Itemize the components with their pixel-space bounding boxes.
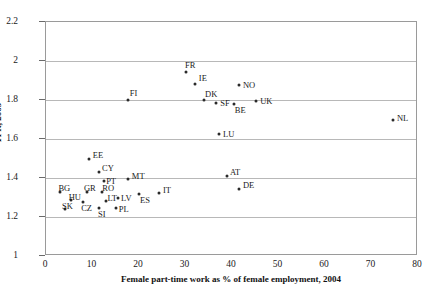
data-point-label: LT — [107, 194, 117, 203]
y-tick-mark — [39, 21, 45, 22]
data-point — [237, 83, 240, 86]
data-point-label: BG — [58, 184, 70, 193]
data-point-label: IT — [163, 186, 171, 195]
data-point-label: CY — [102, 164, 114, 173]
data-point-label: RO — [102, 184, 114, 193]
data-point — [184, 71, 187, 74]
data-point — [117, 197, 120, 200]
data-point-label: NO — [243, 81, 255, 90]
x-tick-label: 70 — [356, 259, 386, 269]
y-tick-mark — [39, 216, 45, 217]
data-point-label: UK — [260, 97, 272, 106]
y-tick-mark — [39, 177, 45, 178]
data-point-label: SI — [98, 210, 106, 219]
data-point — [98, 170, 101, 173]
data-point — [217, 133, 220, 136]
data-point-label: LU — [223, 130, 234, 139]
gridline — [46, 178, 416, 179]
data-point-label: EE — [93, 151, 103, 160]
gridline — [46, 100, 416, 101]
data-point-label: PL — [119, 205, 129, 214]
data-point — [215, 101, 218, 104]
x-tick-label: 30 — [170, 259, 200, 269]
data-point-label: DE — [243, 181, 254, 190]
x-tick-label: 10 — [77, 259, 107, 269]
data-point-label: FR — [185, 61, 195, 70]
scatter-chart: FRIEFIDKSFNOUKBELUNLEECYPTMTATDEITESBGGR… — [0, 0, 437, 302]
data-point — [193, 83, 196, 86]
data-point-label: FI — [130, 89, 138, 98]
y-tick-mark — [39, 255, 45, 256]
data-point-label: NL — [397, 114, 408, 123]
data-point-label: CZ — [81, 204, 92, 213]
x-axis-label: Female part-time work as % of female emp… — [45, 274, 417, 284]
x-tick-label: 60 — [309, 259, 339, 269]
y-tick-mark — [39, 60, 45, 61]
y-tick-label: 2.2 — [0, 16, 18, 26]
x-tick-label: 50 — [263, 259, 293, 269]
data-point-label: IE — [199, 74, 207, 83]
data-point — [114, 207, 117, 210]
x-tick-label: 0 — [30, 259, 60, 269]
plot-area: FRIEFIDKSFNOUKBELUNLEECYPTMTATDEITESBGGR… — [45, 21, 417, 255]
x-tick-label: 20 — [123, 259, 153, 269]
data-point — [126, 99, 129, 102]
data-point-label: GR — [84, 184, 96, 193]
y-axis-label: TFR, 2005 — [0, 103, 3, 144]
x-tick-label: 80 — [402, 259, 432, 269]
data-point — [255, 99, 258, 102]
data-point — [391, 119, 394, 122]
y-tick-label: 1.2 — [0, 211, 18, 221]
y-tick-mark — [39, 99, 45, 100]
gridline — [46, 139, 416, 140]
data-point-label: DK — [205, 90, 217, 99]
data-point — [157, 191, 160, 194]
y-tick-label: 1 — [0, 250, 18, 260]
data-point-label: MT — [132, 172, 145, 181]
x-tick-label: 40 — [216, 259, 246, 269]
data-point — [126, 177, 129, 180]
data-point — [87, 157, 90, 160]
data-point-label: SF — [220, 99, 229, 108]
y-tick-label: 1.4 — [0, 172, 18, 182]
data-point-label: ES — [140, 196, 150, 205]
data-point-label: AT — [230, 168, 240, 177]
gridline — [46, 61, 416, 62]
y-tick-mark — [39, 138, 45, 139]
data-point — [237, 188, 240, 191]
y-tick-label: 2 — [0, 55, 18, 65]
data-point-label: SK — [62, 202, 73, 211]
data-point-label: BE — [235, 106, 246, 115]
data-point-label: LV — [121, 194, 132, 203]
data-point — [225, 175, 228, 178]
